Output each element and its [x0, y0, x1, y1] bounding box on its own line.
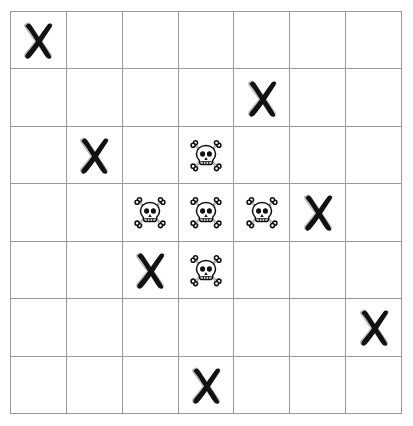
grid-cell[interactable] [234, 357, 290, 414]
grid-cell[interactable] [346, 12, 402, 69]
grid-cell[interactable] [290, 299, 346, 356]
grid-cell[interactable] [11, 299, 67, 356]
skull [196, 203, 215, 222]
grid-cell[interactable] [290, 12, 346, 69]
grid-cell[interactable] [11, 357, 67, 414]
grid-cell[interactable] [67, 69, 123, 126]
grid-cell[interactable] [346, 69, 402, 126]
grid-cell[interactable] [123, 127, 179, 184]
grid-cell[interactable] [234, 184, 290, 241]
skull-and-crossbones-icon [245, 195, 279, 229]
cross-mark-icon [354, 306, 394, 348]
grid-cell[interactable] [67, 299, 123, 356]
grid-cell[interactable] [290, 69, 346, 126]
grid-cell[interactable] [11, 127, 67, 184]
grid-cell[interactable] [234, 12, 290, 69]
cross-mark-icon [242, 77, 282, 119]
grid-cell[interactable] [346, 184, 402, 241]
grid-cell[interactable] [290, 127, 346, 184]
grid-cell[interactable] [179, 184, 235, 241]
cross-mark-icon [130, 249, 170, 291]
grid-cell[interactable] [11, 69, 67, 126]
grid-cell[interactable] [290, 357, 346, 414]
cross-mark-icon [18, 19, 58, 61]
cross-mark-icon [74, 134, 114, 176]
skull [196, 260, 215, 279]
grid-cell[interactable] [67, 184, 123, 241]
grid-cell[interactable] [234, 69, 290, 126]
grid-cell[interactable] [11, 242, 67, 299]
skull-and-crossbones-icon [133, 195, 167, 229]
grid-cell[interactable] [123, 357, 179, 414]
grid-cell[interactable] [123, 299, 179, 356]
grid-cell[interactable] [179, 69, 235, 126]
grid-cell[interactable] [346, 242, 402, 299]
grid-cell[interactable] [346, 127, 402, 184]
grid[interactable] [10, 11, 402, 414]
grid-cell[interactable] [234, 127, 290, 184]
grid-cell[interactable] [11, 12, 67, 69]
skull-and-crossbones-icon [189, 195, 223, 229]
skull-and-crossbones-icon [189, 253, 223, 287]
grid-cell[interactable] [290, 242, 346, 299]
skull [141, 203, 160, 222]
grid-cell[interactable] [123, 242, 179, 299]
grid-cell[interactable] [290, 184, 346, 241]
grid-cell[interactable] [234, 299, 290, 356]
grid-cell[interactable] [179, 127, 235, 184]
grid-cell[interactable] [234, 242, 290, 299]
skull-and-crossbones-icon [189, 138, 223, 172]
grid-cell[interactable] [179, 299, 235, 356]
grid-cell[interactable] [123, 69, 179, 126]
grid-cell[interactable] [346, 357, 402, 414]
skull [196, 146, 215, 165]
grid-cell[interactable] [67, 242, 123, 299]
grid-cell[interactable] [11, 184, 67, 241]
board-container [0, 0, 413, 426]
cross-mark-icon [186, 364, 226, 406]
grid-cell[interactable] [346, 299, 402, 356]
grid-cell[interactable] [67, 357, 123, 414]
grid-cell[interactable] [179, 357, 235, 414]
grid-cell[interactable] [123, 184, 179, 241]
grid-cell[interactable] [67, 127, 123, 184]
cross-mark-icon [298, 191, 338, 233]
grid-cell[interactable] [179, 242, 235, 299]
skull [252, 203, 271, 222]
grid-cell[interactable] [123, 12, 179, 69]
grid-cell[interactable] [179, 12, 235, 69]
grid-cell[interactable] [67, 12, 123, 69]
